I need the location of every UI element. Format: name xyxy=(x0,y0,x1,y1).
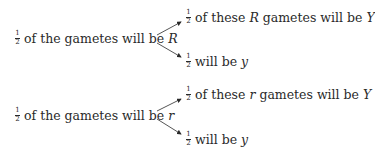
parent-r-statement: 12 of the gametes will be r xyxy=(15,107,174,123)
fraction-half: 12 xyxy=(186,131,191,147)
fraction-half: 12 xyxy=(15,30,20,46)
child-R-Y-statement: 12 of these R gametes will be Y xyxy=(186,9,375,25)
child-R-y-statement: 12 will be y xyxy=(186,53,248,69)
fraction-half: 12 xyxy=(186,9,191,25)
parent-R-statement: 12 of the gametes will be R xyxy=(15,30,178,46)
fraction-half: 12 xyxy=(186,53,191,69)
child-r-y-statement: 12 will be y xyxy=(186,131,248,147)
fraction-half: 12 xyxy=(186,86,191,102)
fraction-half: 12 xyxy=(15,107,20,123)
child-r-Y-statement: 12 of these r gametes will be Y xyxy=(186,86,371,102)
